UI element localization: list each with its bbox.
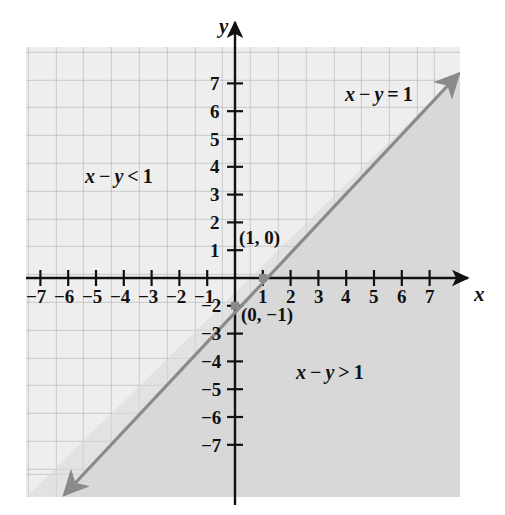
ineq-gt-rhs: 1: [354, 361, 364, 383]
y-tick-label--5: −5: [201, 380, 221, 399]
point-0-neg1-marker: [231, 302, 239, 310]
x-tick-label--3: −3: [138, 287, 158, 306]
equation-minus: −: [355, 83, 374, 105]
ineq-lt-rhs: 1: [143, 165, 153, 187]
y-tick-label--7: −7: [201, 436, 221, 455]
x-tick-label-4: 4: [341, 287, 351, 306]
point-1-0-marker: [259, 274, 267, 282]
y-tick-label--3: −3: [201, 324, 221, 343]
x-tick-label-6: 6: [397, 287, 407, 306]
y-tick-label-7: 7: [210, 74, 220, 93]
x-tick-label--2: −2: [166, 287, 186, 306]
x-tick-label-3: 3: [314, 287, 324, 306]
graph-canvas: [0, 0, 505, 515]
equation-relation: =: [383, 83, 402, 105]
ineq-lt-relation: <: [123, 165, 142, 187]
region-label-less-than: x−y<1: [85, 166, 153, 186]
ineq-lt-term-y: y: [114, 165, 123, 187]
y-tick-label-1: 1: [210, 241, 220, 260]
ineq-lt-term-x: x: [85, 165, 95, 187]
x-axis-label: x: [474, 284, 485, 305]
ineq-lt-minus: −: [95, 165, 114, 187]
ineq-gt-term-x: x: [296, 361, 306, 383]
y-tick-label-2: 2: [210, 213, 220, 232]
ineq-gt-relation: >: [334, 361, 353, 383]
line-equation-label: x−y=1: [345, 84, 413, 104]
shaded-region-x-minus-y-gt-1: [26, 73, 460, 497]
x-tick-label--4: −4: [110, 287, 130, 306]
ineq-gt-term-y: y: [325, 361, 334, 383]
y-axis-label: y: [219, 16, 228, 37]
x-tick-label--7: −7: [26, 287, 46, 306]
equation-rhs: 1: [403, 83, 413, 105]
x-tick-label-7: 7: [425, 287, 435, 306]
y-tick-label--2: −2: [201, 296, 221, 315]
y-tick-label-5: 5: [210, 130, 220, 149]
y-tick-label--4: −4: [201, 352, 221, 371]
equation-term-y: y: [374, 83, 383, 105]
equation-term-x: x: [345, 83, 355, 105]
graph-figure: y x −7 −6 −5 −4 −3 −2 −1 1 2 3 4 5 6 7 7…: [0, 0, 505, 515]
x-tick-label-5: 5: [369, 287, 379, 306]
region-label-greater-than: x−y>1: [296, 362, 364, 382]
x-tick-label--5: −5: [82, 287, 102, 306]
point-label-1-0: (1, 0): [239, 228, 280, 247]
y-tick-label-4: 4: [210, 157, 220, 176]
x-tick-label--6: −6: [54, 287, 74, 306]
ineq-gt-minus: −: [306, 361, 325, 383]
y-tick-label-3: 3: [210, 185, 220, 204]
point-label-0-neg1: (0, −1): [241, 305, 293, 324]
y-tick-label--6: −6: [201, 408, 221, 427]
y-tick-label-6: 6: [210, 102, 220, 121]
